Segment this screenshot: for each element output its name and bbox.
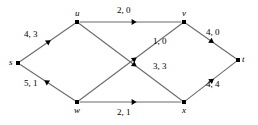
node-label-t: t <box>242 55 245 64</box>
edge-label-s-u: 4, 3 <box>24 30 38 39</box>
edge-label-w-s: 5, 1 <box>24 79 38 88</box>
edge-label-u-v: 2, 0 <box>117 6 131 15</box>
edge-label-x-t: 4, 4 <box>206 80 220 89</box>
edge-label-w-v: 1, 0 <box>153 37 167 46</box>
node-label-s: s <box>9 58 13 67</box>
edge-arrowhead-w-v <box>131 57 137 62</box>
node-t <box>236 58 240 62</box>
node-s <box>16 61 20 65</box>
edge-label-v-t: 4, 0 <box>206 28 220 37</box>
edge-label-w-x: 2, 1 <box>117 108 131 117</box>
edges-layer <box>20 19 236 105</box>
node-x <box>182 100 186 104</box>
node-label-x: x <box>182 106 186 115</box>
node-w <box>75 100 79 104</box>
edge-arrowhead-w-x <box>132 99 137 105</box>
edge-arrowhead-s-u <box>45 40 51 45</box>
flow-network-diagram: 4, 35, 12, 03, 31, 02, 14, 04, 4suvwxt <box>0 0 258 125</box>
edge-arrowhead-u-v <box>132 19 137 25</box>
edge-arrowhead-u-x <box>131 61 137 66</box>
edge-label-u-x: 3, 3 <box>153 62 167 71</box>
node-v <box>182 20 186 24</box>
edge-arrowhead-v-t <box>208 38 214 43</box>
node-label-u: u <box>75 9 80 18</box>
node-u <box>75 20 79 24</box>
node-label-w: w <box>74 106 80 115</box>
node-label-v: v <box>182 9 186 18</box>
